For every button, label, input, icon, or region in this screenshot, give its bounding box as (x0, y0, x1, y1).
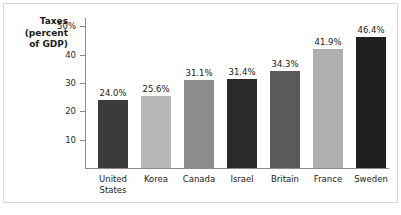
bar-column-sweden: 46.4% (356, 18, 386, 168)
bar-value-label-france: 41.9% (304, 37, 352, 47)
bar-column-france: 41.9% (313, 18, 343, 168)
y-axis-title-line-2: (percent (4, 28, 68, 40)
plot-area: 24.0%25.6%31.1%31.4%34.3%41.9%46.4% (85, 18, 385, 168)
bar-value-label-sweden: 46.4% (347, 25, 395, 35)
y-axis-title-line-3: of GDP) (4, 39, 68, 51)
bar-column-israel: 31.4% (227, 18, 257, 168)
x-axis-line (85, 168, 389, 169)
bar-value-label-canada: 31.1% (175, 68, 223, 78)
x-category-label-sweden: Sweden (344, 174, 398, 185)
bar-united-states[interactable] (98, 100, 128, 168)
y-axis-title: Taxes (percent of GDP) (4, 16, 68, 51)
bar-column-canada: 31.1% (184, 18, 214, 168)
bar-column-korea: 25.6% (141, 18, 171, 168)
bar-value-label-britain: 34.3% (261, 59, 309, 69)
chart-figure: Taxes (percent of GDP) 1020304050% 24.0%… (0, 0, 401, 215)
x-category-label-line: States (86, 185, 140, 196)
bar-column-britain: 34.3% (270, 18, 300, 168)
bar-france[interactable] (313, 49, 343, 168)
bar-column-united-states: 24.0% (98, 18, 128, 168)
x-category-label-line: Sweden (344, 174, 398, 185)
y-axis-title-line-1: Taxes (4, 16, 68, 28)
bar-sweden[interactable] (356, 37, 386, 168)
bar-korea[interactable] (141, 96, 171, 168)
bar-israel[interactable] (227, 79, 257, 168)
bar-canada[interactable] (184, 80, 214, 168)
bar-value-label-korea: 25.6% (132, 84, 180, 94)
bar-britain[interactable] (270, 71, 300, 168)
bar-value-label-israel: 31.4% (218, 67, 266, 77)
bar-value-label-united-states: 24.0% (89, 88, 137, 98)
